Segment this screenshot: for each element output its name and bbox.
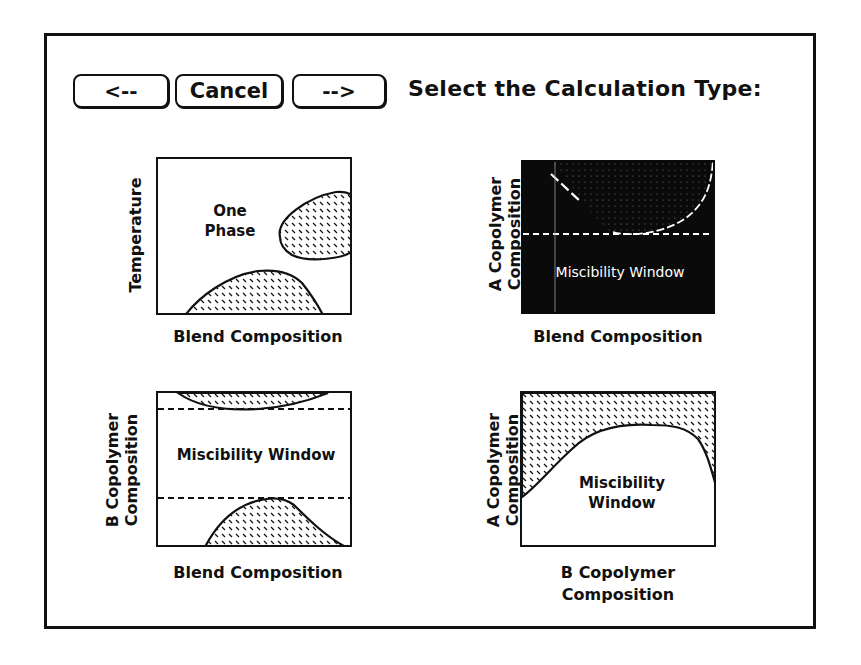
y-axis-label-line2: Composition	[503, 395, 522, 545]
miscibility-window-label: Miscibility Window	[158, 445, 352, 465]
y-axis-label-line2: Composition	[505, 154, 524, 314]
next-button[interactable]: -->	[292, 74, 386, 108]
miscibility-label-line1: Miscibility	[562, 473, 682, 493]
y-axis-label: A Copolymer Composition	[484, 395, 522, 545]
phase-diagram-thumbnail[interactable]: Miscibility Window	[156, 391, 352, 547]
y-axis-label: A Copolymer Composition	[486, 154, 524, 314]
y-axis-label-line1: A Copolymer	[484, 395, 503, 545]
x-axis-label: Blend Composition	[156, 563, 360, 582]
miscibility-window-graphic	[522, 393, 716, 547]
y-axis-label: Temperature	[126, 170, 145, 300]
phase-diagram-thumbnail[interactable]: Miscibility Window	[520, 391, 716, 547]
miscibility-label-line2: Window	[562, 493, 682, 513]
x-axis-label: Blend Composition	[518, 327, 718, 346]
dialog-title: Select the Calculation Type:	[408, 76, 762, 101]
y-axis-label-line1: A Copolymer	[486, 154, 505, 314]
y-axis-label-line1: B Copolymer	[103, 395, 122, 545]
cancel-button[interactable]: Cancel	[175, 74, 283, 108]
one-phase-label: One	[194, 201, 266, 221]
x-axis-label: Blend Composition	[156, 327, 360, 346]
phase-diagram-thumbnail-selected[interactable]: Miscibility Window	[521, 160, 715, 314]
one-phase-label-2: Phase	[194, 221, 266, 241]
back-button[interactable]: <--	[73, 74, 169, 108]
phase-diagram-thumbnail[interactable]: One Phase	[156, 157, 352, 315]
y-axis-label: B Copolymer Composition	[103, 395, 141, 545]
x-axis-label-line2: Composition	[520, 584, 716, 606]
x-axis-label-line1: B Copolymer	[520, 562, 716, 584]
miscibility-window-label: Miscibility Window	[523, 262, 715, 282]
miscibility-window-graphic	[523, 162, 715, 314]
miscibility-window-graphic	[158, 393, 352, 547]
y-axis-label-line2: Composition	[122, 395, 141, 545]
x-axis-label: B Copolymer Composition	[520, 562, 716, 606]
